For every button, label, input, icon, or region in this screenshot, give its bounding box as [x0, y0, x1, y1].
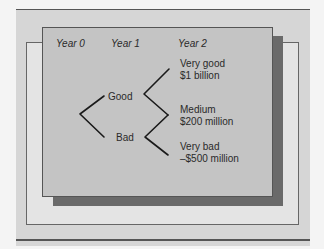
node-good: Good — [108, 91, 132, 102]
outcome-name: Very bad — [180, 141, 239, 153]
outcome-name: Very good — [180, 58, 225, 70]
branch-good — [144, 69, 169, 115]
node-bad: Bad — [116, 132, 134, 143]
outcome-name: Medium — [180, 104, 233, 116]
outcome-value: –$500 million — [180, 153, 239, 165]
branch-root-good — [80, 96, 104, 137]
outcome-medium: Medium $200 million — [180, 104, 233, 128]
outcome-value: $200 million — [180, 116, 233, 128]
outcome-very-bad: Very bad –$500 million — [180, 141, 239, 165]
outcome-very-good: Very good $1 billion — [180, 58, 225, 82]
tree-branches — [0, 0, 324, 249]
outcome-value: $1 billion — [180, 70, 225, 82]
branch-bad — [145, 115, 168, 155]
